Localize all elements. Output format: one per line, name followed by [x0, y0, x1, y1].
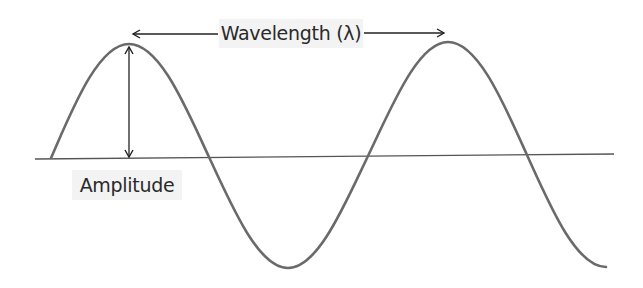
amplitude-label: Amplitude — [72, 170, 182, 200]
wavelength-label: Wavelength (λ) — [219, 19, 363, 48]
